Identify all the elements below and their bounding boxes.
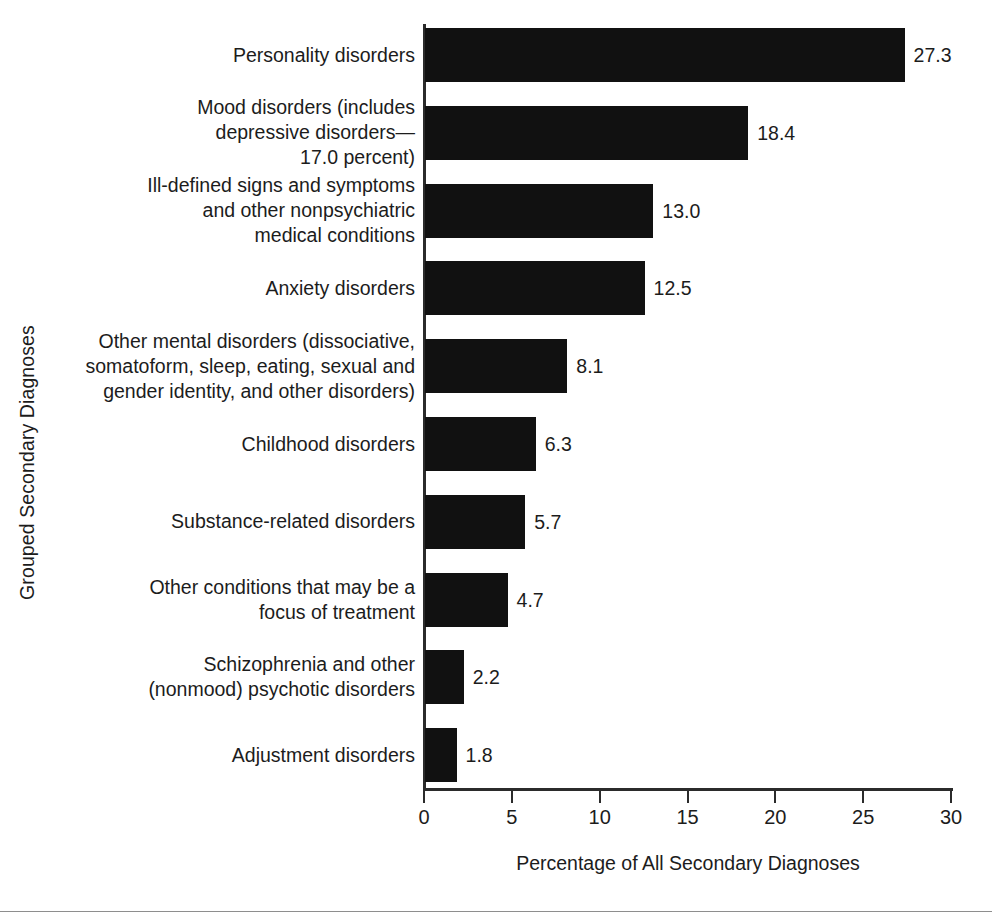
bar-category-label-line: Anxiety disorders — [0, 276, 415, 301]
bar-value-label: 2.2 — [473, 650, 500, 704]
x-axis-tick — [862, 788, 864, 803]
bar-value-label: 1.8 — [466, 728, 493, 782]
bar-value-label: 5.7 — [534, 495, 561, 549]
bar-category-label-line: gender identity, and other disorders) — [0, 379, 415, 404]
bar-value-label: 8.1 — [576, 339, 603, 393]
bar-value-label: 4.7 — [517, 573, 544, 627]
bar-category-label-line: somatoform, sleep, eating, sexual and — [0, 354, 415, 379]
x-axis-tick-label: 0 — [394, 806, 454, 829]
bar-category-label: Schizophrenia and other(nonmood) psychot… — [0, 652, 415, 702]
bar-category-label-line: Personality disorders — [0, 43, 415, 68]
bar-value-label: 27.3 — [914, 28, 952, 82]
bar[interactable] — [425, 106, 748, 160]
bar[interactable] — [425, 573, 508, 627]
bar-row: Childhood disorders6.3 — [0, 417, 992, 471]
x-axis-title: Percentage of All Secondary Diagnoses — [423, 852, 953, 875]
bar-row: Anxiety disorders12.5 — [0, 261, 992, 315]
bar-category-label-line: and other nonpsychiatric — [0, 198, 415, 223]
bar-row: Mood disorders (includesdepressive disor… — [0, 106, 992, 160]
bar-row: Schizophrenia and other(nonmood) psychot… — [0, 650, 992, 704]
x-axis-tick-label: 20 — [745, 806, 805, 829]
footer-rule — [0, 911, 992, 912]
bar-category-label-line: Mood disorders (includes — [0, 95, 415, 120]
bar-category-label-line: Adjustment disorders — [0, 743, 415, 768]
bar-category-label: Adjustment disorders — [0, 743, 415, 768]
bar[interactable] — [425, 261, 645, 315]
x-axis-tick-label: 25 — [833, 806, 893, 829]
bar[interactable] — [425, 339, 567, 393]
bar-row: Ill-defined signs and symptomsand other … — [0, 184, 992, 238]
bar-chart-figure: Grouped Secondary Diagnoses Personality … — [0, 0, 992, 921]
bar[interactable] — [425, 728, 457, 782]
bar-category-label: Anxiety disorders — [0, 276, 415, 301]
bar-row: Adjustment disorders1.8 — [0, 728, 992, 782]
bar-category-label: Other mental disorders (dissociative,som… — [0, 329, 415, 404]
bar-category-label-line: Ill-defined signs and symptoms — [0, 173, 415, 198]
bar-category-label-line: Childhood disorders — [0, 432, 415, 457]
bar-value-label: 6.3 — [545, 417, 572, 471]
x-axis-tick-label: 15 — [658, 806, 718, 829]
x-axis-tick-label: 5 — [482, 806, 542, 829]
x-axis-tick — [950, 788, 952, 803]
bar-value-label: 12.5 — [654, 261, 692, 315]
x-axis-tick — [687, 788, 689, 803]
x-axis-tick — [511, 788, 513, 803]
bar-category-label: Mood disorders (includesdepressive disor… — [0, 95, 415, 170]
bar-row: Personality disorders27.3 — [0, 28, 992, 82]
x-axis-tick — [774, 788, 776, 803]
bar[interactable] — [425, 28, 905, 82]
bar-category-label-line: focus of treatment — [0, 600, 415, 625]
bar-row: Other mental disorders (dissociative,som… — [0, 339, 992, 393]
bar-value-label: 13.0 — [662, 184, 700, 238]
bar[interactable] — [425, 417, 536, 471]
bar-category-label: Other conditions that may be afocus of t… — [0, 575, 415, 625]
bar-category-label-line: Other mental disorders (dissociative, — [0, 329, 415, 354]
bar-value-label: 18.4 — [757, 106, 795, 160]
bar-category-label-line: Substance-related disorders — [0, 509, 415, 534]
bar-category-label: Substance-related disorders — [0, 509, 415, 534]
bar-category-label-line: (nonmood) psychotic disorders — [0, 677, 415, 702]
bar-row: Substance-related disorders5.7 — [0, 495, 992, 549]
bar-category-label-line: depressive disorders— — [0, 120, 415, 145]
x-axis-tick — [423, 788, 425, 803]
bar-category-label-line: Schizophrenia and other — [0, 652, 415, 677]
bar-category-label-line: Other conditions that may be a — [0, 575, 415, 600]
bar[interactable] — [425, 184, 653, 238]
bar-category-label: Childhood disorders — [0, 432, 415, 457]
bar-category-label: Ill-defined signs and symptomsand other … — [0, 173, 415, 248]
bar[interactable] — [425, 650, 464, 704]
bar-category-label-line: medical conditions — [0, 223, 415, 248]
bar-category-label: Personality disorders — [0, 43, 415, 68]
x-axis-tick — [599, 788, 601, 803]
x-axis-tick-label: 30 — [921, 806, 981, 829]
bar[interactable] — [425, 495, 525, 549]
bar-row: Other conditions that may be afocus of t… — [0, 573, 992, 627]
plot-area: Personality disorders27.3Mood disorders … — [0, 0, 992, 921]
x-axis-tick-label: 10 — [570, 806, 630, 829]
bar-category-label-line: 17.0 percent) — [0, 145, 415, 170]
